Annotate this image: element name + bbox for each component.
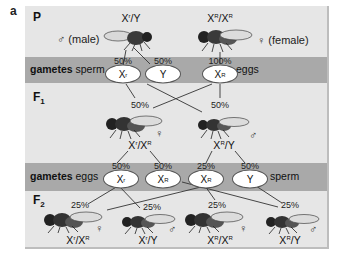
p-male-fly-icon	[102, 24, 156, 52]
f2-1-sex: ♀	[95, 222, 103, 234]
f1-female-pct: 50%	[131, 100, 149, 110]
gamete-1-oval: Xr	[105, 65, 141, 84]
gametes-1-label: gametes sperm	[30, 63, 105, 75]
p-male-genotype: Xr/Y	[122, 12, 141, 24]
gamete2-2-oval: XR	[145, 170, 181, 189]
f2-2-genotype: Xr/Y	[139, 234, 158, 246]
f2-1-genotype: Xr/XR	[66, 234, 89, 246]
f2-4-genotype: XR/Y	[279, 234, 300, 246]
gamete-2-oval: Y	[145, 65, 181, 84]
generation-p-label: P	[33, 10, 41, 24]
f2-3-sex: ♀	[239, 222, 247, 234]
gametes-2-sperm-label: sperm	[270, 170, 299, 182]
f2-4-sex: ♂	[309, 223, 317, 235]
f2-4-pct: 25%	[281, 200, 299, 210]
gametes-1-eggs-label: eggs	[236, 63, 259, 75]
f2-3-fly-icon	[183, 207, 245, 233]
f1-male-sex: ♂	[249, 129, 257, 141]
generation-f1-label: F1	[33, 90, 45, 106]
gamete-3-oval: XR	[202, 65, 238, 84]
p-female-sex-label: ♀ (female)	[257, 34, 309, 46]
f1-female-sex: ♀	[155, 127, 163, 139]
f1-male-pct: 50%	[211, 100, 229, 110]
p-male-sex-label: ♂ (male)	[57, 33, 99, 45]
gamete2-4-oval: Y	[232, 170, 268, 189]
f1-male-genotype: XR/Y	[213, 139, 234, 151]
f1-female-genotype: Xr/XR	[128, 139, 151, 151]
gamete2-3-oval: XR	[188, 170, 224, 189]
gamete2-1-oval: Xr	[103, 170, 139, 189]
p-female-fly-icon	[196, 23, 256, 53]
f2-2-sex: ♂	[168, 223, 176, 235]
f1-male-fly-icon	[196, 113, 252, 139]
f2-3-genotype: XR/XR	[207, 234, 233, 246]
gametes-2-label: gametes eggs	[30, 170, 98, 182]
